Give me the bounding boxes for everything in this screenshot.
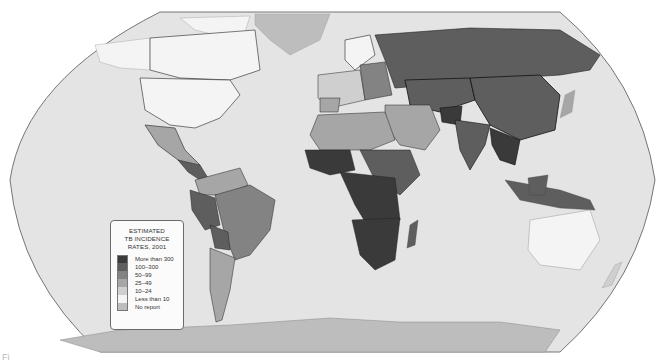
legend-label: Less than 10 <box>135 296 169 302</box>
legend-swatch <box>117 271 128 279</box>
legend-item: More than 300 <box>117 255 183 263</box>
legend-swatch <box>117 287 128 295</box>
legend-swatch <box>117 263 128 271</box>
legend-label: No report <box>135 304 160 310</box>
legend-title-line: RATES, 2001 <box>111 243 183 251</box>
legend-label: 100–300 <box>135 264 158 270</box>
legend-swatch <box>117 303 128 311</box>
region-borneo <box>528 175 548 195</box>
legend-item: Less than 10 <box>117 295 183 303</box>
legend-swatch <box>117 255 128 263</box>
legend-label: 10–24 <box>135 288 152 294</box>
legend-item: 10–24 <box>117 287 183 295</box>
world-map <box>0 0 660 364</box>
legend-label: More than 300 <box>135 256 174 262</box>
legend-item: 50–99 <box>117 271 183 279</box>
legend-title-line: TB INCIDENCE <box>111 235 183 243</box>
legend-items: More than 300 100–300 50–99 25–49 10–24 … <box>117 255 183 311</box>
legend-title: ESTIMATED TB INCIDENCE RATES, 2001 <box>111 227 183 251</box>
legend-label: 50–99 <box>135 272 152 278</box>
legend-swatch <box>117 295 128 303</box>
map-legend: ESTIMATED TB INCIDENCE RATES, 2001 More … <box>110 220 184 330</box>
legend-label: 25–49 <box>135 280 152 286</box>
region-iberia <box>320 98 340 112</box>
region-north-africa <box>310 112 395 150</box>
legend-item: 25–49 <box>117 279 183 287</box>
legend-item: No report <box>117 303 183 311</box>
legend-title-line: ESTIMATED <box>111 227 183 235</box>
legend-item: 100–300 <box>117 263 183 271</box>
figure-label: Fi <box>2 352 10 362</box>
region-canada <box>150 30 260 80</box>
legend-swatch <box>117 279 128 287</box>
